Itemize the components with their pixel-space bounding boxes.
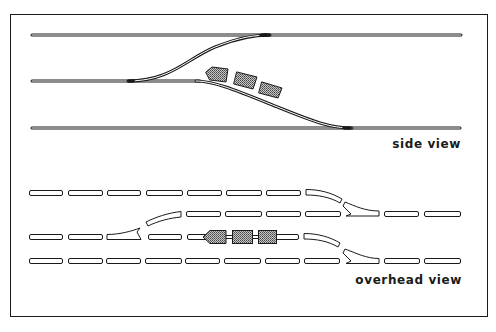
- curved-segment: [146, 212, 181, 227]
- side-view-label: side view: [392, 137, 461, 151]
- train-car: [233, 231, 253, 244]
- junction-mark: [259, 33, 271, 37]
- curved-segment: [304, 234, 340, 248]
- train-car: [259, 82, 282, 98]
- overhead-view: [30, 190, 461, 264]
- overhead-view-label: overhead view: [355, 273, 462, 287]
- diagram-frame: [11, 15, 488, 317]
- train-car: [259, 231, 277, 244]
- locomotive: [203, 231, 226, 244]
- ramp-up-track: [128, 35, 270, 81]
- switch-point-segment: [343, 202, 379, 216]
- overhead-train: [203, 231, 277, 244]
- switch-point-segment: [343, 249, 379, 264]
- curved-segment: [306, 190, 342, 204]
- side-view: [32, 33, 461, 130]
- junction-mark: [342, 126, 352, 130]
- row-4: [30, 249, 461, 264]
- row-3: [30, 228, 341, 247]
- train-car: [234, 72, 257, 89]
- track-switch-diagram: side view overhead view: [0, 0, 496, 332]
- row-2: [146, 212, 461, 227]
- locomotive: [206, 67, 228, 82]
- junction-mark: [127, 79, 135, 83]
- switch-point-segment: [107, 228, 141, 240]
